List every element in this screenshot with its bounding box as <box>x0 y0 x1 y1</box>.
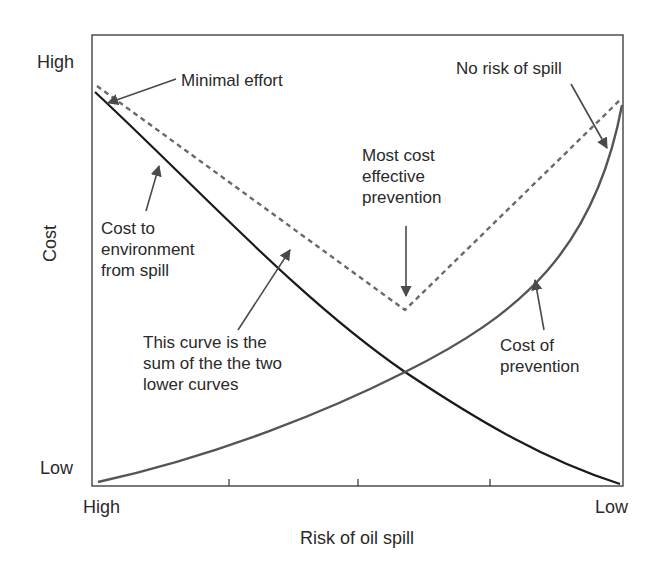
annotation-line: Most cost <box>362 145 441 166</box>
environment-cost-curve <box>95 92 620 484</box>
annotation-line: Cost to <box>101 218 195 239</box>
annotation-arrows <box>108 79 607 330</box>
annotation-line: effective <box>362 166 441 187</box>
annotation-line: sum of the the two <box>143 353 282 374</box>
annotation-line: prevention <box>500 356 579 377</box>
environment-cost-annotation: Cost to environment from spill <box>101 218 195 281</box>
annotation-line: prevention <box>362 187 441 208</box>
y-axis-title: Cost <box>40 225 61 262</box>
chart-canvas <box>0 0 666 570</box>
annotation-line: lower curves <box>143 374 282 395</box>
y-high-label: High <box>37 52 74 73</box>
x-high-label: High <box>83 497 120 518</box>
minimal-effort-annotation: Minimal effort <box>181 70 283 91</box>
no-risk-annotation: No risk of spill <box>456 58 562 79</box>
x-ticks <box>229 479 490 486</box>
annotation-line: This curve is the <box>143 332 282 353</box>
annotation-line: Cost of <box>500 335 579 356</box>
x-low-label: Low <box>595 497 628 518</box>
x-axis-title: Risk of oil spill <box>300 528 414 549</box>
prevention-cost-curve <box>98 105 622 482</box>
sum-curve-annotation: This curve is the sum of the the two low… <box>143 332 282 395</box>
most-cost-effective-annotation: Most cost effective prevention <box>362 145 441 208</box>
annotation-line: from spill <box>101 260 195 281</box>
prevention-cost-annotation: Cost of prevention <box>500 335 579 377</box>
y-low-label: Low <box>40 458 73 479</box>
annotation-line: environment <box>101 239 195 260</box>
